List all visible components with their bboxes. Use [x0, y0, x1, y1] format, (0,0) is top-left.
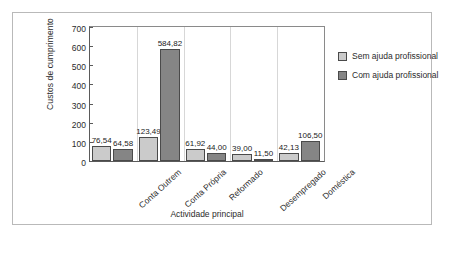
y-axis-tick: 700 — [64, 18, 90, 36]
y-axis-tick-label: 500 — [64, 62, 90, 72]
y-axis-tick-label: 0 — [64, 158, 90, 168]
x-axis-title: Actividade principal — [89, 209, 325, 219]
bar: 11,50 — [254, 159, 273, 161]
x-axis-tick-label: Desempregado — [278, 167, 328, 213]
legend-swatch-icon — [338, 52, 347, 61]
chart-screenshot: Custos de cumprimento 010020030040050060… — [0, 0, 451, 256]
y-axis-tick-label: 400 — [64, 81, 90, 91]
legend-label: Sem ajuda profissional — [352, 51, 438, 61]
legend-item[interactable]: Sem ajuda profissional — [338, 51, 438, 61]
bar-group: 76,5464,58 — [90, 27, 137, 161]
plot-area: 0100200300400500600700 76,5464,58123,495… — [89, 26, 325, 162]
bar: 42,13 — [279, 153, 298, 161]
y-axis-tick: 200 — [64, 114, 90, 132]
bar-value-label: 106,50 — [298, 131, 322, 140]
bar: 106,50 — [301, 141, 320, 161]
bar: 61,92 — [186, 149, 205, 161]
y-axis-tick: 500 — [64, 56, 90, 74]
bar-value-label: 64,58 — [113, 139, 133, 148]
bar-value-label: 61,92 — [185, 139, 205, 148]
chart-frame: Custos de cumprimento 010020030040050060… — [12, 12, 432, 225]
bar: 584,82 — [160, 49, 179, 161]
x-axis-tick-label: Conta Própria — [183, 167, 229, 210]
bar-group: 123,49584,82 — [137, 27, 184, 161]
bar: 64,58 — [113, 149, 132, 161]
y-axis-tick: 600 — [64, 37, 90, 55]
y-axis-title: Custos de cumprimento — [45, 4, 55, 124]
bar-group: 61,9244,00 — [184, 27, 231, 161]
x-axis-tick-label: Reformado — [227, 167, 265, 203]
bars-layer: 76,5464,58123,49584,8261,9244,0039,0011,… — [90, 27, 324, 161]
y-axis-tick: 400 — [64, 75, 90, 93]
bar-value-label: 76,54 — [92, 136, 112, 145]
bar-value-label: 42,13 — [279, 143, 299, 152]
bar-value-label: 39,00 — [232, 144, 252, 153]
bar-value-label: 44,00 — [207, 143, 227, 152]
x-axis-tick-label: Conta Outrem — [136, 167, 182, 210]
y-axis-tick: 0 — [64, 152, 90, 170]
y-axis-tick-label: 700 — [64, 24, 90, 34]
y-axis-tick-mark — [90, 161, 93, 162]
bar: 123,49 — [139, 137, 158, 161]
bar: 44,00 — [207, 153, 226, 161]
bar-value-label: 123,49 — [136, 127, 160, 136]
legend-swatch-icon — [338, 71, 347, 80]
y-axis-tick-label: 200 — [64, 120, 90, 130]
y-axis-tick-label: 600 — [64, 43, 90, 53]
y-axis-tick: 300 — [64, 95, 90, 113]
bar: 76,54 — [92, 146, 111, 161]
y-axis-tick-label: 300 — [64, 101, 90, 111]
legend-item[interactable]: Com ajuda profissional — [338, 70, 438, 80]
y-axis-tick-label: 100 — [64, 139, 90, 149]
bar-value-label: 584,82 — [158, 39, 182, 48]
chart-legend: Sem ajuda profissionalCom ajuda profissi… — [338, 51, 438, 89]
bar-group: 42,13106,50 — [277, 27, 324, 161]
legend-label: Com ajuda profissional — [352, 70, 438, 80]
bar-value-label: 11,50 — [254, 149, 273, 158]
bar: 39,00 — [232, 154, 251, 161]
y-axis-tick: 100 — [64, 133, 90, 151]
bar-group: 39,0011,50 — [230, 27, 277, 161]
